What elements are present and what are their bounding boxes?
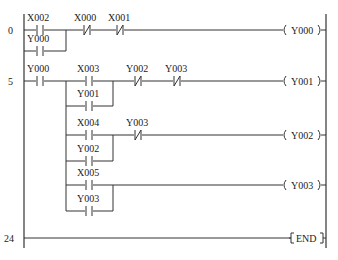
contact-label: Y003: [126, 117, 148, 128]
no-contact-icon: [37, 46, 43, 56]
no-contact-icon: [86, 180, 92, 190]
contact-label: X003: [77, 63, 99, 74]
nc-contact-icon: [135, 76, 141, 86]
coil-label: Y001: [291, 76, 313, 87]
contact-label: Y000: [27, 33, 49, 44]
coil-label: Y000: [291, 25, 313, 36]
step-number-24: 24: [4, 233, 14, 244]
end-label: END: [296, 233, 317, 244]
rung-y003: X005 Y003 Y003: [66, 167, 326, 216]
step-number-5: 5: [8, 76, 13, 87]
contact-label: X000: [74, 12, 96, 23]
contact-label: Y002: [77, 143, 99, 154]
nc-contact-icon: [174, 76, 180, 86]
nc-contact-icon: [135, 130, 141, 140]
rung-0: X002 Y000 X000 X001 Y000: [24, 12, 326, 56]
no-contact-icon: [37, 76, 43, 86]
step-number-0: 0: [8, 25, 13, 36]
contact-label: Y001: [77, 88, 99, 99]
no-contact-icon: [86, 76, 92, 86]
coil-label: Y002: [291, 130, 313, 141]
nc-contact-icon: [117, 25, 123, 35]
rung-24-end: END: [24, 233, 326, 244]
coil-label: Y003: [291, 180, 313, 191]
contact-label: X001: [108, 12, 130, 23]
rung-y002: X004 Y002 Y003 Y002: [66, 117, 326, 166]
contact-label: X004: [77, 117, 99, 128]
contact-label: Y002: [126, 63, 148, 74]
no-contact-icon: [86, 156, 92, 166]
nc-contact-icon: [84, 25, 90, 35]
no-contact-icon: [86, 130, 92, 140]
contact-label: Y003: [165, 63, 187, 74]
no-contact-icon: [86, 101, 92, 111]
contact-label: X005: [77, 167, 99, 178]
ladder-diagram: 0 5 24 X002 Y000 X000: [0, 0, 338, 260]
no-contact-icon: [86, 206, 92, 216]
rung-5: Y000 X003 Y001 Y002 Y003: [24, 63, 326, 211]
contact-label: Y000: [27, 63, 49, 74]
contact-label: Y003: [77, 193, 99, 204]
contact-label: X002: [27, 12, 49, 23]
